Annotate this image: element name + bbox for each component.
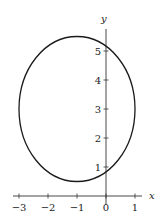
x-axis-label: x xyxy=(149,190,155,201)
y-tick-label: 4 xyxy=(95,75,101,86)
y-tick-label: 5 xyxy=(95,46,101,57)
x-tick-label: 1 xyxy=(132,202,138,213)
y-tick-label: 3 xyxy=(95,104,101,115)
ellipse-plot: −3−2−101 12345 x y xyxy=(0,0,161,224)
plot-canvas: −3−2−101 12345 x y xyxy=(0,0,161,224)
x-tick-label: −3 xyxy=(12,202,27,213)
x-tick-label: −2 xyxy=(41,202,56,213)
x-tick-label: 0 xyxy=(103,202,109,213)
y-axis-label: y xyxy=(100,13,107,24)
x-tick-label: −1 xyxy=(70,202,85,213)
y-tick-label: 1 xyxy=(95,162,101,173)
y-tick-label: 2 xyxy=(95,133,101,144)
ellipse-curve xyxy=(19,37,135,182)
